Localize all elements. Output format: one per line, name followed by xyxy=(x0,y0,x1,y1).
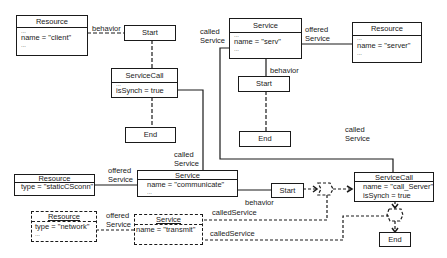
edge-label-offered-service: offered Service xyxy=(305,25,330,43)
node-title: Resource xyxy=(17,16,87,28)
label-line: offered xyxy=(305,25,330,34)
label-line: offered xyxy=(108,166,133,175)
node-attribute: name = "server" xyxy=(353,41,421,50)
end-node-client[interactable]: End xyxy=(125,127,176,143)
ellipsis: ... xyxy=(353,50,421,56)
edge-label-behavior: behavior xyxy=(92,24,121,33)
start-node-serv[interactable]: Start xyxy=(238,76,290,92)
label-line: Service xyxy=(345,134,370,143)
node-title: End xyxy=(240,132,290,146)
node-attribute: name = "client" xyxy=(17,34,87,42)
start-node-client[interactable]: Start xyxy=(124,25,176,41)
edge-label-called-service: called Service xyxy=(200,27,225,45)
edge-label-called-service: called Service xyxy=(345,125,370,143)
start-node-communicate[interactable]: Start xyxy=(271,183,304,198)
node-attribute: type = "network" xyxy=(32,222,96,231)
node-attribute: type = "staticCSconn" xyxy=(15,183,94,191)
node-title: Service xyxy=(230,19,301,33)
ellipsis: ... xyxy=(15,191,94,197)
resource-server-node[interactable]: Resource ... name = "server" ... xyxy=(352,22,422,63)
edge-label-called-service: calledService xyxy=(210,229,255,238)
edge-label-behavior: behavior xyxy=(270,66,299,75)
node-title: Service xyxy=(138,171,237,180)
label-line: called xyxy=(174,150,199,159)
node-attribute: name = "serv" xyxy=(230,37,301,46)
node-attribute: name = "call_Server" xyxy=(355,182,433,191)
label-line: Service xyxy=(305,34,330,43)
node-title: Start xyxy=(272,184,303,197)
edge-label-behavior: behavior xyxy=(245,198,274,207)
label-line: Service xyxy=(200,36,225,45)
node-attribute: name = "transmit" xyxy=(135,225,202,234)
node-attribute: isSynch = true xyxy=(355,191,433,200)
node-title: End xyxy=(126,128,175,142)
node-title: End xyxy=(380,233,410,246)
service-serv-node[interactable]: Service ... name = "serv" ... xyxy=(229,18,302,59)
label-line: Service xyxy=(106,220,131,229)
label-line: called xyxy=(200,27,225,36)
ellipsis: ... xyxy=(138,189,237,195)
resource-network-node[interactable]: Resource type = "network" ... xyxy=(31,211,97,242)
resource-static-node[interactable]: Resource type = "staticCSconn" ... xyxy=(14,174,95,196)
end-node-server[interactable]: End xyxy=(379,232,411,247)
edge-label-called-service: called Service xyxy=(174,150,199,168)
ellipsis: ... xyxy=(230,46,301,52)
service-communicate-node[interactable]: Service name = "communicate" ... xyxy=(137,170,238,197)
node-attribute: name = "communicate" xyxy=(138,180,237,189)
label-line: called xyxy=(345,125,370,134)
node-title: Start xyxy=(125,26,175,40)
node-title: ServiceCall xyxy=(112,69,177,83)
resource-client-node[interactable]: Resource ... name = "client" ... xyxy=(16,15,88,56)
node-title: Resource xyxy=(32,212,96,222)
node-title: Start xyxy=(239,77,289,91)
edge-label-offered-service: offered Service xyxy=(108,166,133,184)
ellipsis: ... xyxy=(32,231,96,237)
edge-label-offered-service: offered Service xyxy=(106,211,131,229)
servicecall-server-node[interactable]: ServiceCall name = "call_Server" isSynch… xyxy=(354,172,434,202)
servicecall-node-client[interactable]: ServiceCall ... isSynch = true xyxy=(111,68,178,98)
service-transmit-node[interactable]: Service name = "transmit" xyxy=(134,214,203,245)
node-title: Service xyxy=(135,215,202,225)
node-attribute: isSynch = true xyxy=(112,86,177,96)
end-node-serv[interactable]: End xyxy=(239,131,291,147)
label-line: offered xyxy=(106,211,131,220)
node-title: Resource xyxy=(353,23,421,36)
edge-label-called-service: calledService xyxy=(212,208,257,217)
label-line: Service xyxy=(174,159,199,168)
label-line: Service xyxy=(108,175,133,184)
ellipsis: ... xyxy=(17,42,87,48)
node-title: ServiceCall xyxy=(355,173,433,182)
